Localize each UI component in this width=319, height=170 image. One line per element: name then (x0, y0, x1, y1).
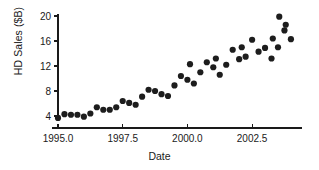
data-point (210, 64, 216, 70)
data-point (178, 73, 184, 79)
data-point (120, 98, 126, 104)
data-point (217, 72, 223, 78)
data-point (204, 59, 210, 65)
data-point (197, 69, 203, 75)
data-point (100, 107, 106, 113)
data-point (107, 107, 113, 113)
data-point (281, 27, 287, 33)
data-point (187, 61, 193, 67)
data-point (239, 44, 245, 50)
data-point (171, 82, 177, 88)
data-point (74, 112, 80, 118)
data-point (139, 94, 145, 100)
x-tick-group: 1995.01997.52000.02002.5 (43, 124, 268, 144)
data-point (87, 110, 93, 116)
y-tick-label: 12 (40, 61, 52, 72)
data-point (243, 54, 249, 60)
data-point (270, 35, 276, 41)
data-point (288, 36, 294, 42)
data-point (249, 37, 255, 43)
y-tick-group: 48121620 (40, 11, 59, 122)
data-point (113, 104, 119, 110)
data-point (275, 44, 281, 50)
data-point (94, 104, 100, 110)
data-point (255, 49, 261, 55)
data-point (165, 93, 171, 99)
data-point (283, 22, 289, 28)
data-point (81, 114, 87, 120)
data-point (152, 88, 158, 94)
data-point (55, 115, 61, 121)
data-point (126, 100, 132, 106)
y-tick-label: 16 (40, 36, 52, 47)
data-point (262, 45, 268, 51)
data-point (191, 80, 197, 86)
y-tick-label: 20 (40, 11, 52, 22)
data-point (184, 77, 190, 83)
data-point (133, 102, 139, 108)
data-point (68, 112, 74, 118)
plot-area: 48121620 1995.01997.52000.02002.5 (0, 0, 319, 170)
scatter-chart-figure: HD Sales ($B) 48121620 1995.01997.52000.… (0, 0, 319, 170)
x-axis-label: Date (0, 150, 319, 162)
data-point-group (55, 14, 294, 121)
x-tick-label: 1995.0 (43, 133, 74, 144)
y-tick-label: 4 (45, 111, 51, 122)
data-point (276, 14, 282, 20)
y-tick-label: 8 (45, 86, 51, 97)
x-tick-label: 2002.5 (237, 133, 268, 144)
data-point (230, 47, 236, 53)
data-point (213, 55, 219, 61)
data-point (223, 62, 229, 68)
x-tick-label: 1997.5 (107, 133, 138, 144)
data-point (268, 55, 274, 61)
data-point (236, 56, 242, 62)
x-tick-label: 2000.0 (172, 133, 203, 144)
data-point (61, 111, 67, 117)
data-point (145, 87, 151, 93)
data-point (158, 91, 164, 97)
